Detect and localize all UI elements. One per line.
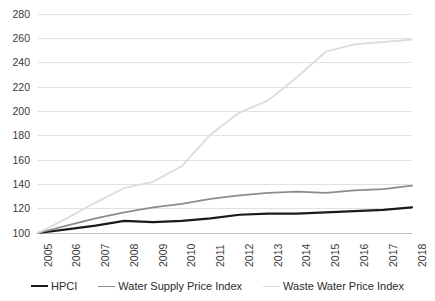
legend-line-icon	[263, 286, 280, 287]
legend-item-label: Waste Water Price Index	[283, 281, 404, 292]
y-tick-label: 140	[12, 179, 30, 190]
x-tick-label: 2009	[158, 244, 169, 267]
y-tick-label: 120	[12, 203, 30, 214]
x-tick-label: 2010	[186, 244, 197, 267]
x-tick-label: 2006	[71, 244, 82, 267]
x-tick-label: 2014	[301, 244, 312, 267]
x-tick-label: 2013	[273, 244, 284, 267]
series-line	[38, 207, 412, 233]
x-tick-label: 2005	[43, 244, 54, 267]
legend-item-label: HPCI	[51, 281, 77, 292]
y-tick-label: 280	[12, 9, 30, 20]
chart-legend: HPCIWater Supply Price IndexWaste Water …	[0, 275, 435, 297]
legend-item-label: Water Supply Price Index	[118, 281, 242, 292]
legend-item[interactable]: HPCI	[31, 281, 77, 292]
legend-item[interactable]: Waste Water Price Index	[263, 281, 404, 292]
x-tick-label: 2007	[100, 244, 111, 267]
x-tick-label: 2017	[388, 244, 399, 267]
x-tick-label: 2015	[330, 244, 341, 267]
y-tick-label: 260	[12, 33, 30, 44]
series-lines	[38, 14, 412, 233]
y-tick-label: 240	[12, 57, 30, 68]
y-tick-label: 200	[12, 106, 30, 117]
y-axis: 100120140160180200220240260280	[0, 0, 34, 247]
x-tick-label: 2018	[417, 244, 428, 267]
legend-item[interactable]: Water Supply Price Index	[98, 281, 242, 292]
legend-line-icon	[98, 286, 115, 287]
x-tick-label: 2008	[129, 244, 140, 267]
x-tick-label: 2011	[215, 244, 226, 267]
line-chart: 100120140160180200220240260280 200520062…	[0, 0, 435, 301]
y-tick-label: 100	[12, 228, 30, 239]
legend-line-icon	[31, 285, 48, 287]
series-line	[38, 40, 412, 233]
x-tick-label: 2012	[244, 244, 255, 267]
y-tick-label: 220	[12, 82, 30, 93]
plot-area	[38, 14, 412, 233]
x-tick-label: 2016	[359, 244, 370, 267]
y-tick-label: 180	[12, 130, 30, 141]
y-tick-label: 160	[12, 155, 30, 166]
x-axis: 2005200620072008200920102011201220132014…	[38, 235, 412, 273]
